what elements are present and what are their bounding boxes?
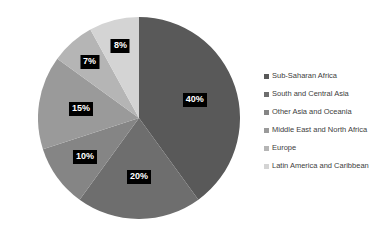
legend-swatch-icon (264, 74, 269, 79)
chart-legend: Sub-Saharan AfricaSouth and Central Asia… (264, 68, 386, 176)
legend-swatch-icon (264, 146, 269, 151)
legend-item-label: Latin America and Caribbean (272, 162, 369, 170)
pie-svg (38, 17, 240, 219)
legend-item-label: Europe (272, 144, 296, 152)
legend-swatch-icon (264, 164, 269, 169)
legend-item[interactable]: Europe (264, 140, 386, 156)
pie-data-label: 20% (127, 170, 151, 184)
legend-swatch-icon (264, 92, 269, 97)
pie-plot-area: 40%20%10%15%7%8% (38, 17, 240, 219)
legend-item[interactable]: Other Asia and Oceania (264, 104, 386, 120)
legend-item[interactable]: Sub-Saharan Africa (264, 68, 386, 84)
legend-item-label: Middle East and North Africa (272, 126, 367, 134)
pie-data-label: 8% (111, 39, 130, 53)
pie-data-label: 7% (80, 55, 99, 69)
legend-item[interactable]: Latin America and Caribbean (264, 158, 386, 174)
legend-swatch-icon (264, 128, 269, 133)
legend-item-label: South and Central Asia (272, 90, 349, 98)
pie-data-label: 40% (183, 93, 207, 107)
pie-data-label: 15% (69, 102, 93, 116)
pie-slice-group (38, 17, 240, 219)
legend-item-label: Other Asia and Oceania (272, 108, 352, 116)
legend-item[interactable]: South and Central Asia (264, 86, 386, 102)
pie-chart: 40%20%10%15%7%8% Sub-Saharan AfricaSouth… (0, 0, 386, 237)
pie-data-label: 10% (73, 150, 97, 164)
legend-swatch-icon (264, 110, 269, 115)
legend-item[interactable]: Middle East and North Africa (264, 122, 386, 138)
legend-item-label: Sub-Saharan Africa (272, 72, 337, 80)
